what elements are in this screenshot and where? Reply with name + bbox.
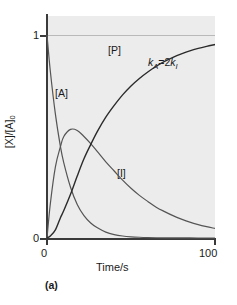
curve-product-p bbox=[47, 45, 215, 238]
figure-panel-a: 1 0 0 100 [X]/[A]0 Time/s (a) [P] [A] [I… bbox=[0, 0, 237, 305]
curve-reactant-a bbox=[47, 35, 215, 238]
curve-intermediate-i bbox=[47, 129, 215, 238]
curve-layer bbox=[0, 0, 237, 305]
